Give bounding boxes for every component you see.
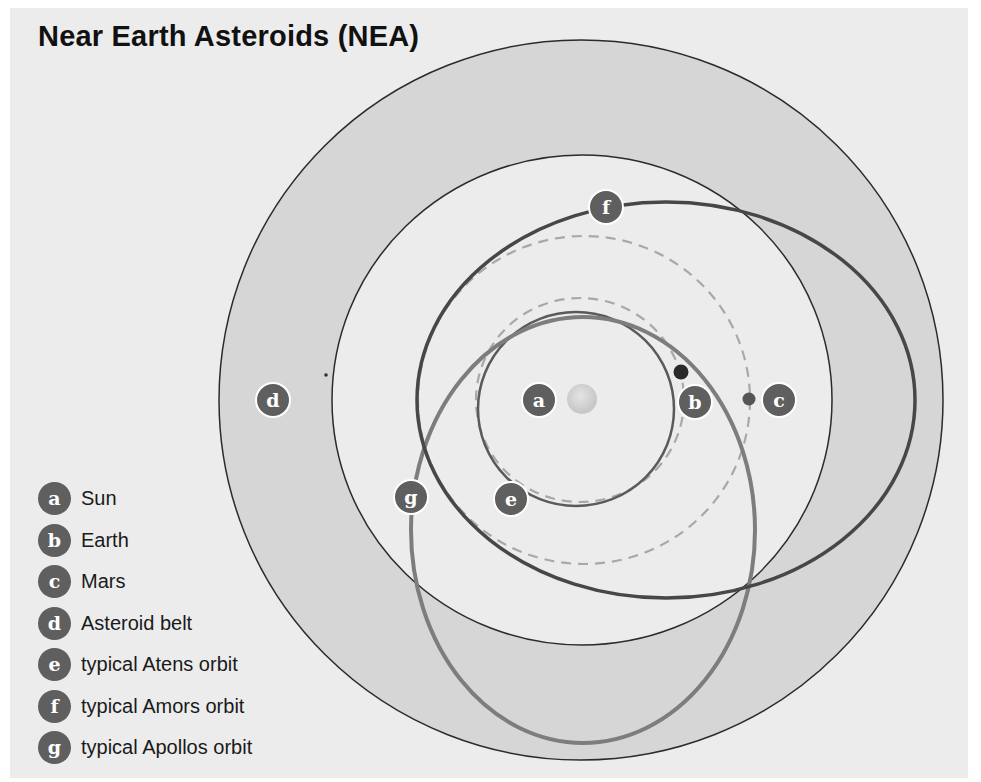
legend-badge-b: b (38, 524, 71, 557)
legend-item-asteroid-belt: d Asteroid belt (38, 603, 252, 645)
legend-label: Mars (81, 570, 125, 593)
legend-item-mars: c Mars (38, 561, 252, 603)
legend-label: typical Apollos orbit (81, 736, 252, 759)
legend-label: Asteroid belt (81, 612, 192, 635)
marker-c-mars: c (761, 382, 797, 418)
page-title: Near Earth Asteroids (NEA) (38, 20, 419, 53)
legend-item-amors: f typical Amors orbit (38, 686, 252, 728)
legend-item-atens: e typical Atens orbit (38, 644, 252, 686)
legend-item-earth: b Earth (38, 520, 252, 562)
legend-label: Earth (81, 529, 129, 552)
marker-e-atens: e (493, 481, 529, 517)
marker-f-amors: f (588, 189, 624, 225)
marker-g-apollos: g (393, 479, 429, 515)
legend-badge-f: f (38, 690, 71, 723)
legend-label: Sun (81, 487, 117, 510)
earth-icon (674, 365, 689, 380)
legend-badge-e: e (38, 648, 71, 681)
legend-badge-d: d (38, 607, 71, 640)
legend-badge-a: a (38, 482, 71, 515)
legend: a Sun b Earth c Mars d Asteroid belt e t… (38, 478, 252, 769)
legend-badge-c: c (38, 565, 71, 598)
legend-item-sun: a Sun (38, 478, 252, 520)
mars-icon (743, 393, 756, 406)
marker-a-sun: a (521, 382, 557, 418)
legend-badge-g: g (38, 731, 71, 764)
legend-label: typical Amors orbit (81, 695, 244, 718)
legend-item-apollos: g typical Apollos orbit (38, 727, 252, 769)
stray-asteroid-dot (324, 373, 328, 377)
marker-b-earth: b (677, 384, 713, 420)
marker-d-asteroid-belt: d (255, 382, 291, 418)
sun-icon (567, 384, 597, 414)
legend-label: typical Atens orbit (81, 653, 238, 676)
